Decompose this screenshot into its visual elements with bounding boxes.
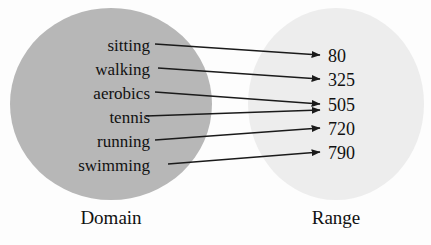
mapping-arrow-aerobics: [155, 92, 320, 104]
range-caption: Range: [246, 208, 426, 227]
mapping-arrow-tennis: [146, 110, 320, 116]
domain-item-swimming: swimming: [0, 157, 150, 174]
domain-item-running: running: [0, 133, 150, 150]
range-item-80: 80: [328, 47, 418, 65]
domain-item-walking: walking: [0, 61, 150, 78]
domain-caption: Domain: [11, 208, 211, 227]
range-item-325: 325: [328, 71, 418, 89]
domain-item-aerobics: aerobics: [0, 85, 150, 102]
mapping-arrow-running: [155, 128, 320, 140]
mapping-arrow-sitting: [155, 44, 320, 55]
domain-item-tennis: tennis: [0, 109, 150, 126]
domain-item-sitting: sitting: [0, 37, 150, 54]
mapping-arrow-swimming: [168, 152, 320, 164]
range-item-505: 505: [328, 96, 418, 114]
mapping-arrow-walking: [158, 68, 320, 79]
range-item-790: 790: [328, 144, 418, 162]
range-item-720: 720: [328, 120, 418, 138]
mapping-diagram: sitting walking aerobics tennis running …: [0, 0, 431, 245]
